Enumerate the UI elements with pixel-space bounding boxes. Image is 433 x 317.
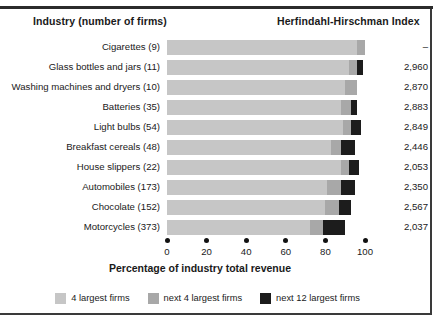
legend-swatch-s2: [148, 293, 159, 304]
stacked-bar: [167, 120, 361, 135]
hhi-value: 2,053: [372, 161, 428, 172]
hhi-value: 2,567: [372, 201, 428, 212]
bar-segment-s1: [167, 180, 327, 195]
hhi-value: –: [372, 41, 428, 52]
axis-tick: [323, 238, 328, 243]
legend-label: next 4 largest firms: [164, 293, 243, 303]
bar-segment-s3: [339, 200, 351, 215]
chart-row: Glass bottles and jars (11)2,960: [0, 58, 433, 78]
chart-row: Automobiles (173)2,350: [0, 178, 433, 198]
legend-item: next 4 largest firms: [148, 293, 243, 304]
industry-label: House slippers (22): [0, 161, 160, 172]
industry-label: Cigarettes (9): [0, 41, 160, 52]
chart-row: House slippers (22)2,053: [0, 158, 433, 178]
bar-segment-s2: [343, 120, 351, 135]
stacked-bar: [167, 100, 357, 115]
bar-segment-s2: [349, 60, 357, 75]
bar-segment-s2: [345, 80, 357, 95]
bar-segment-s3: [351, 120, 361, 135]
axis-tick-label: 0: [147, 246, 187, 257]
stacked-bar: [167, 220, 345, 235]
hhi-value: 2,350: [372, 181, 428, 192]
industry-label: Motorcycles (373): [0, 221, 160, 232]
bar-segment-s1: [167, 80, 345, 95]
legend-swatch-s3: [260, 293, 271, 304]
stacked-bar: [167, 80, 357, 95]
chart-row: Cigarettes (9)–: [0, 38, 433, 58]
chart-row: Motorcycles (373)2,037: [0, 218, 433, 238]
industry-label: Batteries (35): [0, 101, 160, 112]
stacked-bar: [167, 200, 351, 215]
stacked-bar: [167, 180, 355, 195]
axis-tick: [165, 238, 170, 243]
bar-segment-s3: [357, 60, 363, 75]
bar-segment-s1: [167, 160, 341, 175]
bar-segment-s3: [341, 180, 355, 195]
bar-segment-s3: [323, 220, 345, 235]
axis-tick: [204, 238, 209, 243]
stacked-bar: [167, 160, 359, 175]
bar-segment-s1: [167, 220, 310, 235]
chart-row: Light bulbs (54)2,849: [0, 118, 433, 138]
bar-segment-s1: [167, 100, 341, 115]
legend-swatch-s1: [55, 293, 66, 304]
hhi-value: 2,883: [372, 101, 428, 112]
bar-segment-s2: [310, 220, 324, 235]
axis-tick: [244, 238, 249, 243]
bar-segment-s3: [351, 100, 357, 115]
chart-row: Chocolate (152)2,567: [0, 198, 433, 218]
stacked-bar: [167, 140, 355, 155]
industry-label: Light bulbs (54): [0, 121, 160, 132]
bar-segment-s1: [167, 140, 331, 155]
axis-tick-label: 100: [345, 246, 385, 257]
hhi-value: 2,870: [372, 81, 428, 92]
axis-tick-label: 20: [187, 246, 227, 257]
bar-segment-s2: [331, 140, 341, 155]
chart-row: Washing machines and dryers (10)2,870: [0, 78, 433, 98]
axis-tick-label: 80: [305, 246, 345, 257]
bar-segment-s2: [327, 180, 341, 195]
legend-item: 4 largest firms: [55, 293, 129, 304]
chart-row: Batteries (35)2,883: [0, 98, 433, 118]
legend-label: next 12 largest firms: [276, 293, 360, 303]
axis-tick-label: 60: [266, 246, 306, 257]
bar-segment-s2: [325, 200, 339, 215]
bar-segment-s1: [167, 60, 349, 75]
stacked-bar: [167, 40, 365, 55]
bar-segment-s3: [349, 160, 359, 175]
axis-tick: [283, 238, 288, 243]
axis-tick-label: 40: [226, 246, 266, 257]
bar-segment-s3: [341, 140, 355, 155]
industry-label: Automobiles (173): [0, 181, 160, 192]
bar-segment-s2: [341, 160, 349, 175]
chart-legend: 4 largest firmsnext 4 largest firmsnext …: [0, 290, 433, 306]
hhi-value: 2,960: [372, 61, 428, 72]
bar-segment-s2: [341, 100, 351, 115]
stacked-bar: [167, 60, 363, 75]
industry-label: Glass bottles and jars (11): [0, 61, 160, 72]
bar-segment-s2: [357, 40, 365, 55]
bar-segment-s1: [167, 120, 343, 135]
legend-item: next 12 largest firms: [260, 293, 360, 304]
bar-segment-s1: [167, 40, 357, 55]
hhi-value: 2,037: [372, 221, 428, 232]
x-axis-title: Percentage of industry total revenue: [0, 262, 400, 274]
chart-row: Breakfast cereals (48)2,446: [0, 138, 433, 158]
industry-label: Chocolate (152): [0, 201, 160, 212]
industry-label: Washing machines and dryers (10): [0, 81, 160, 92]
industry-label: Breakfast cereals (48): [0, 141, 160, 152]
legend-label: 4 largest firms: [71, 293, 129, 303]
bar-segment-s1: [167, 200, 325, 215]
hhi-value: 2,849: [372, 121, 428, 132]
axis-tick: [363, 238, 368, 243]
hhi-value: 2,446: [372, 141, 428, 152]
